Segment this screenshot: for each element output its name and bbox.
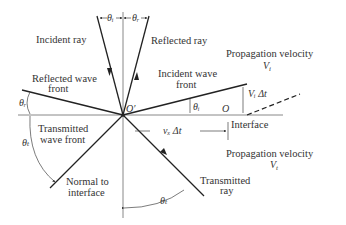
- theta-t-bottom-arc: [124, 190, 184, 208]
- origin-label: O: [222, 103, 229, 114]
- reflected-ray-arrow: [134, 72, 139, 80]
- normal-label: Normal to: [66, 176, 109, 187]
- incident-ray-line: [97, 16, 123, 115]
- transmitted-wave-front-label-2: wave front: [40, 134, 85, 145]
- vi-dt-label: Vᵢ Δt: [248, 88, 267, 99]
- origin-point: [121, 113, 125, 117]
- theta-t-bottom: θₜ: [160, 195, 168, 206]
- theta-r-top: θᵣ: [132, 12, 140, 23]
- theta-i-right: θᵢ: [193, 101, 200, 112]
- theta-r-left: θᵣ: [19, 97, 27, 108]
- theta-r-arc: [27, 92, 30, 114]
- incident-wave-front-label-2: front: [176, 79, 196, 90]
- reflected-ray-line: [123, 16, 149, 115]
- incident-ray-label: Incident ray: [36, 34, 87, 45]
- propagation-velocity-bottom: Propagation velocity: [226, 148, 314, 159]
- vx-dt-label: vₓ Δt: [163, 125, 182, 136]
- reflected-wave-front-label-2: front: [48, 83, 68, 94]
- theta-i-top: θᵢ: [107, 12, 114, 23]
- propagation-velocity-top: Propagation velocity: [226, 48, 314, 59]
- interface-label: Interface: [231, 119, 269, 130]
- normal-label-2: interface: [68, 187, 105, 198]
- theta-t-left: θₜ: [22, 137, 30, 148]
- vi-label: Vi: [263, 60, 271, 73]
- reflected-wave-front-line: [22, 90, 123, 115]
- transmitted-ray-label-2: ray: [220, 185, 234, 196]
- reflected-ray-label: Reflected ray: [151, 35, 208, 46]
- origin-prime-label: O′: [126, 103, 136, 114]
- wave-diagram: θᵢ θᵣ θᵣ θₜ θₜ θᵢ Vᵢ Δt vₓ Δt O′ O Incid…: [0, 0, 346, 225]
- transmitted-wave-front-label: Transmitted: [38, 123, 89, 134]
- vt-label: Vt: [270, 159, 279, 172]
- incident-wave-front-label: Incident wave: [158, 68, 218, 79]
